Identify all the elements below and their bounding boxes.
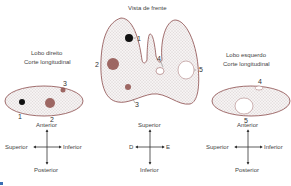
front-view-title: Vista de frente [128,5,167,12]
corner-mark [0,182,3,185]
compass-left-left: Superior [5,144,28,151]
nodule-2-brown [45,98,55,108]
left-lobe-cut [212,86,290,116]
left-lobe-title: Lobo esquerdo [226,52,266,59]
cyst-4 [156,68,164,75]
compass-left-bottom: Posterior [34,167,58,174]
compass-center-left: D [129,144,133,151]
cyst-5 [235,98,253,114]
front-marker-3: 3 [135,101,139,108]
right-lobe-title: Lobo direito [31,50,62,57]
nodule-3-brown [125,84,131,90]
compass-left [34,130,61,164]
cyst-4 [255,86,263,90]
compass-right-left: Superior [206,144,229,151]
compass-right [235,130,262,164]
cyst-5 [178,61,194,79]
compass-center [136,130,164,164]
right-marker-3: 3 [63,80,67,87]
left-marker-4: 4 [258,78,262,85]
nodule-3-brown [61,88,66,93]
compass-center-top: Superior [138,122,161,129]
front-marker-2: 2 [95,61,99,68]
front-marker-4: 4 [157,55,161,62]
compass-left-top: Anterior [36,122,57,129]
thyroid-diagram [0,0,291,186]
thyroid-front-view [101,18,199,104]
compass-right-top: Anterior [237,122,258,129]
right-lobe-subtitle: Corte longitudinal [24,59,71,66]
compass-right-right: Inferior [264,144,283,151]
right-lobe-cut [5,86,83,116]
nodule-1-black [19,99,25,105]
front-marker-5: 5 [199,66,203,73]
compass-center-right: E [166,144,170,151]
left-lobe-subtitle: Corte longitudinal [223,61,270,68]
compass-left-right: Inferior [63,144,82,151]
nodule-2-brown [107,58,119,70]
compass-right-bottom: Posterior [235,167,259,174]
compass-center-bottom: Inferior [140,167,159,174]
front-marker-1: 1 [137,35,141,42]
nodule-1-black [125,34,133,42]
right-marker-1: 1 [18,113,22,120]
